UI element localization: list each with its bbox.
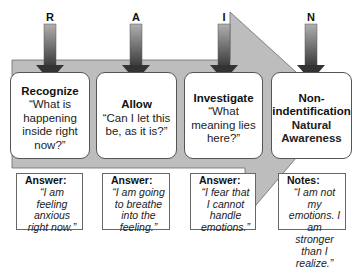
card-title: Allow bbox=[121, 98, 152, 112]
card-recognize: Recognize “What is happening inside righ… bbox=[10, 72, 90, 159]
letter-n: N bbox=[301, 11, 321, 23]
answer-box-recognize: Answer: “I am feeling anxious right now.… bbox=[16, 173, 83, 230]
card-non-identification: Non-indentification Natural Awareness bbox=[271, 72, 352, 159]
card-question: “Can I let this be, as it is?” bbox=[100, 112, 173, 139]
answer-text: “I am feeling anxious right now.” bbox=[25, 187, 79, 234]
answer-box-allow: Answer: “I am going to breathe into the … bbox=[102, 173, 170, 230]
letter-a: A bbox=[126, 11, 146, 23]
card-question: Natural Awareness bbox=[275, 119, 348, 146]
card-investigate: Investigate “What meaning lies here?” bbox=[184, 72, 263, 159]
notes-box-non-identification: Notes: “I am not my emotions. I am stron… bbox=[278, 173, 346, 230]
card-question: “What is happening inside right now?” bbox=[14, 98, 86, 152]
card-title: Recognize bbox=[21, 85, 79, 99]
notes-text: “I am not my emotions. I am stronger tha… bbox=[287, 187, 342, 269]
answer-text: “I am going to breathe into the feeling.… bbox=[111, 187, 166, 234]
card-title: Non-indentification bbox=[272, 92, 351, 119]
answer-box-investigate: Answer: “I fear that I cannot handle emo… bbox=[190, 173, 256, 230]
card-allow: Allow “Can I let this be, as it is?” bbox=[96, 72, 177, 159]
letter-r: R bbox=[40, 11, 60, 23]
card-title: Investigate bbox=[193, 92, 253, 106]
card-question: “What meaning lies here?” bbox=[188, 105, 259, 146]
answer-text: “I fear that I cannot handle emotions.” bbox=[199, 187, 252, 234]
letter-i: I bbox=[214, 11, 234, 23]
